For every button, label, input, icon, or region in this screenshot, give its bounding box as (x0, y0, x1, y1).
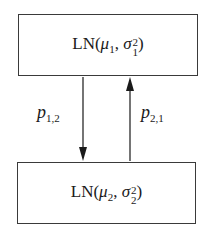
transition-label-p12: p1,2 (37, 102, 60, 123)
transition-arrows (0, 0, 212, 231)
transition-label-p21: p2,1 (141, 102, 164, 123)
arrow-down-p12 (79, 77, 87, 161)
arrow-up-p21 (126, 77, 134, 161)
